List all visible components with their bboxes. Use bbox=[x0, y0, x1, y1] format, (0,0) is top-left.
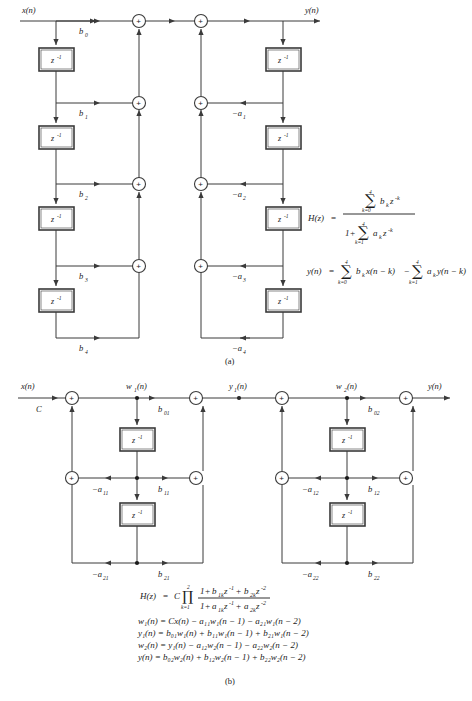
svg-text:H(z): H(z) bbox=[307, 213, 324, 223]
svg-text:2: 2 bbox=[85, 195, 88, 201]
svg-text:+: + bbox=[69, 474, 74, 483]
svg-text:+: + bbox=[193, 394, 198, 403]
svg-text:k: k bbox=[379, 234, 382, 240]
svg-text:z: z bbox=[255, 601, 260, 611]
svg-text:b: b bbox=[368, 484, 372, 494]
svg-text:-1: -1 bbox=[284, 132, 289, 138]
svg-text:(n): (n) bbox=[347, 381, 357, 391]
svg-text:z: z bbox=[223, 601, 228, 611]
svg-text:11: 11 bbox=[103, 490, 108, 496]
svg-text:+: + bbox=[236, 586, 241, 596]
svg-text:-1: -1 bbox=[57, 54, 62, 60]
svg-text:k=0: k=0 bbox=[338, 279, 347, 285]
svg-text:-1: -1 bbox=[229, 585, 234, 591]
svg-text:z: z bbox=[223, 586, 228, 596]
svg-text:z: z bbox=[255, 586, 260, 596]
svg-text:b: b bbox=[79, 343, 83, 353]
svg-text:+: + bbox=[236, 601, 241, 611]
panel-label-b: (b) bbox=[225, 676, 235, 686]
svg-text:b: b bbox=[380, 196, 385, 206]
svg-text:4: 4 bbox=[416, 259, 419, 265]
svg-text:−a: −a bbox=[232, 189, 242, 199]
svg-text:+: + bbox=[136, 99, 141, 108]
svg-text:12: 12 bbox=[374, 490, 380, 496]
svg-text:−a: −a bbox=[302, 569, 312, 579]
svg-text:b: b bbox=[79, 108, 83, 118]
svg-text:a: a bbox=[212, 601, 217, 611]
svg-text:1+: 1+ bbox=[345, 228, 356, 238]
svg-text:+: + bbox=[193, 474, 198, 483]
svg-text:-k: -k bbox=[388, 227, 393, 233]
node-w2 bbox=[345, 396, 349, 400]
svg-text:-1: -1 bbox=[57, 295, 62, 301]
filter-structures-svg: z-1 z-1 z-1 z-1 bbox=[0, 0, 472, 701]
svg-text:−a: −a bbox=[232, 108, 242, 118]
svg-text:4: 4 bbox=[362, 221, 365, 227]
svg-text:b: b bbox=[79, 189, 83, 199]
svg-text:a: a bbox=[373, 228, 378, 238]
svg-text:+: + bbox=[136, 180, 141, 189]
svg-text:-1: -1 bbox=[57, 213, 62, 219]
svg-text:0: 0 bbox=[85, 32, 88, 38]
svg-text:21: 21 bbox=[103, 575, 109, 581]
svg-text:+: + bbox=[403, 394, 408, 403]
svg-text:+: + bbox=[136, 262, 141, 271]
feedback-coefficient-labels: −a1 −a2 −a3 −a4 bbox=[232, 108, 246, 355]
svg-text:-1: -1 bbox=[348, 509, 353, 515]
svg-text:k=0: k=0 bbox=[362, 207, 371, 213]
svg-text:=: = bbox=[331, 213, 336, 223]
difference-equation-y1: y₁(n) = b₀₁w₁(n) + b₁₁w₁(n − 1) + b₂₁w₁(… bbox=[137, 628, 309, 638]
label-w1: w bbox=[126, 381, 132, 391]
figure-container: z-1 z-1 z-1 z-1 bbox=[0, 0, 472, 701]
svg-text:k: k bbox=[362, 272, 365, 278]
svg-text:1: 1 bbox=[85, 114, 88, 120]
svg-text:3: 3 bbox=[242, 277, 246, 283]
svg-text:k=1: k=1 bbox=[181, 604, 190, 610]
difference-equations-b: w₁(n) = Cx(n) − a₁₁w₁(n − 1) − a₂₁w₁(n −… bbox=[137, 616, 309, 662]
svg-text:4: 4 bbox=[85, 349, 88, 355]
difference-equation-w1: w₁(n) = Cx(n) − a₁₁w₁(n − 1) − a₂₁w₁(n −… bbox=[138, 616, 301, 626]
svg-text:01: 01 bbox=[164, 410, 170, 416]
svg-text:−a: −a bbox=[92, 484, 102, 494]
svg-text:−a: −a bbox=[232, 271, 242, 281]
svg-text:+: + bbox=[136, 17, 141, 26]
svg-text:z: z bbox=[382, 228, 387, 238]
svg-text:11: 11 bbox=[164, 490, 169, 496]
svg-text:=: = bbox=[329, 266, 334, 276]
svg-text:k=1: k=1 bbox=[409, 279, 418, 285]
svg-text:2: 2 bbox=[243, 195, 246, 201]
svg-text:k: k bbox=[433, 272, 436, 278]
svg-text:-2: -2 bbox=[261, 585, 266, 591]
svg-text:y(n − k): y(n − k) bbox=[436, 266, 466, 276]
svg-text:b: b bbox=[79, 271, 83, 281]
svg-text:4: 4 bbox=[345, 259, 348, 265]
svg-text:+: + bbox=[403, 474, 408, 483]
output-label-a: y(n) bbox=[304, 5, 319, 15]
svg-text:C: C bbox=[174, 591, 181, 601]
svg-text:-1: -1 bbox=[284, 213, 289, 219]
svg-text:+: + bbox=[198, 17, 203, 26]
svg-text:2: 2 bbox=[187, 584, 190, 590]
svg-text:1: 1 bbox=[243, 114, 246, 120]
svg-text:y(n): y(n) bbox=[306, 266, 322, 276]
svg-text:−: − bbox=[404, 266, 409, 276]
svg-text:-1: -1 bbox=[229, 600, 234, 606]
svg-text:+: + bbox=[279, 474, 284, 483]
svg-text:a: a bbox=[427, 266, 432, 276]
svg-text:+: + bbox=[69, 394, 74, 403]
svg-text:−a: −a bbox=[302, 484, 312, 494]
svg-text:-k: -k bbox=[395, 195, 400, 201]
svg-text:−a: −a bbox=[92, 569, 102, 579]
svg-text:b: b bbox=[356, 266, 361, 276]
difference-equation-w2: w₂(n) = y₁(n) − a₁₂w₂(n − 1) − a₂₂w₂(n −… bbox=[138, 640, 298, 650]
svg-text:b: b bbox=[79, 26, 83, 36]
svg-text:4: 4 bbox=[369, 189, 372, 195]
svg-text:b: b bbox=[212, 586, 217, 596]
svg-text:-2: -2 bbox=[261, 600, 266, 606]
svg-text:-1: -1 bbox=[57, 132, 62, 138]
svg-text:−a: −a bbox=[232, 343, 242, 353]
svg-text:4: 4 bbox=[243, 349, 246, 355]
svg-text:-1: -1 bbox=[284, 295, 289, 301]
panel-a: z-1 z-1 z-1 z-1 bbox=[20, 5, 466, 366]
svg-text:b: b bbox=[368, 404, 372, 414]
